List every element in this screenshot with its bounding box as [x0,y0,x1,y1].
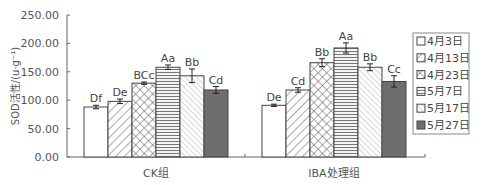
y-tick-label: 100.00 [21,94,60,107]
category-label: IBA处理组 [308,166,359,180]
significance-label: De [112,86,127,99]
significance-label: Cc [387,63,401,76]
legend-label: 4月23日 [427,69,470,82]
significance-label: Bb [363,51,378,64]
y-tick-label: 250.00 [21,9,60,22]
bar [180,76,204,157]
legend-label: 4月13日 [427,52,470,65]
significance-label: De [266,91,281,104]
significance-label: BCc [133,69,154,82]
category-label: CK组 [143,166,169,180]
bar [204,90,228,157]
legend-label: 4月3日 [427,35,463,48]
bar [156,67,180,157]
y-tick-label: 150.00 [21,66,60,79]
legend-swatch [417,71,425,79]
significance-label: Bb [185,56,200,69]
significance-label: Df [90,92,103,105]
legend-label: 5月17日 [427,102,470,115]
legend-swatch [417,87,425,95]
significance-label: Cd [209,74,224,87]
legend-swatch [417,121,425,129]
legend-swatch [417,37,425,45]
bar [84,107,108,157]
legend: 4月3日4月13日4月23日5月7日5月17日5月27日 [413,33,470,134]
significance-label: Bb [315,46,330,59]
y-axis-title: SOD活性/(u·g⁻¹) [9,47,21,125]
bar [132,83,156,157]
significance-label: Aa [161,52,175,65]
legend-swatch [417,54,425,62]
legend-label: 5月27日 [427,119,470,132]
y-tick-label: 0.00 [35,151,60,164]
bar [262,105,286,157]
bar [286,90,310,157]
y-axis: 0.0050.00100.00150.00200.00250.00 [21,9,71,164]
y-tick-label: 200.00 [21,37,60,50]
bar [334,48,358,157]
bar [108,101,132,157]
legend-label: 5月7日 [427,85,463,98]
legend-swatch [417,104,425,112]
bar-chart: 0.0050.00100.00150.00200.00250.00 DfDeBC… [0,0,481,185]
significance-label: Aa [339,30,353,43]
y-tick-label: 50.00 [28,123,60,136]
bar [310,63,334,157]
significance-label: Cd [291,75,306,88]
bar [382,81,406,157]
bar [358,67,382,157]
